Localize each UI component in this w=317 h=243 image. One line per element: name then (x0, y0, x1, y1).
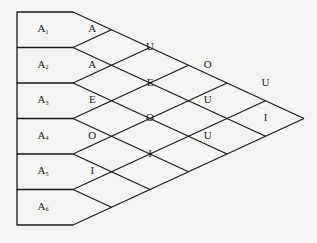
row-label: A3 (38, 93, 49, 106)
row-label-subscript: 2 (45, 65, 48, 71)
cell-letter: I (148, 147, 152, 159)
cell-letter: O (146, 111, 154, 123)
lattice-diagonal-down (73, 190, 112, 208)
lattice-diagram: A1A2A3A4A5A6AAEOIUEOIOUUUIO (0, 0, 317, 243)
cell-letter: I (264, 111, 268, 123)
cell-letter: O (204, 58, 212, 70)
lattice-diagonal-up (73, 101, 266, 190)
row-label: A5 (38, 164, 49, 177)
cell-letter: U (262, 76, 270, 88)
cell-letter: A (88, 58, 96, 70)
row-label: A2 (38, 58, 49, 71)
row-label-subscript: 5 (45, 171, 48, 177)
cell-letter: E (147, 76, 154, 88)
row-label-subscript: 1 (45, 29, 48, 35)
row-label-subscript: 3 (45, 100, 48, 106)
cell-letter: U (146, 40, 154, 52)
cell-letter: E (89, 93, 96, 105)
row-label: A6 (38, 200, 49, 213)
row-label: A1 (38, 22, 49, 35)
lattice-diagonal-down (73, 48, 266, 137)
lattice-diagonal-up (73, 65, 189, 118)
row-label-subscript: 6 (45, 207, 48, 213)
row-label-subscript: 4 (45, 136, 48, 142)
row-label: A4 (38, 129, 49, 142)
cell-letter: A (88, 22, 96, 34)
cell-letter: I (90, 164, 94, 176)
cell-letter: U (204, 129, 212, 141)
cell-letter: O (88, 129, 96, 141)
cell-letter: U (204, 93, 212, 105)
